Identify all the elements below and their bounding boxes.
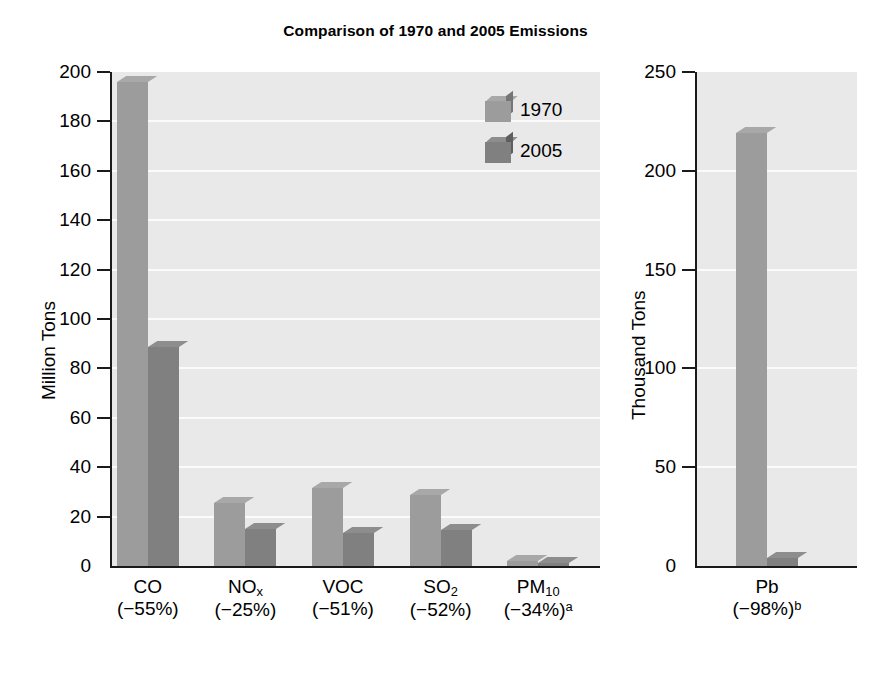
y-axis-tick bbox=[97, 71, 110, 73]
x-axis-category-label: PM10(−34%)a bbox=[458, 576, 618, 622]
legend-label-1970: 1970 bbox=[520, 100, 562, 119]
gridline bbox=[112, 219, 600, 221]
x-axis-category-label: Pb(−98%)b bbox=[687, 576, 847, 621]
y-axis-tick bbox=[682, 71, 695, 73]
legend-swatch-2005-icon bbox=[485, 137, 511, 163]
gridline bbox=[697, 269, 857, 271]
panel-lead: Thousand Tons 250200150100500 Pb(−98%)b bbox=[600, 0, 871, 679]
bar-1970 bbox=[214, 503, 245, 566]
gridline bbox=[697, 466, 857, 468]
plot-area-right bbox=[695, 72, 857, 568]
bar-2005 bbox=[767, 558, 798, 566]
bar-1970 bbox=[117, 82, 148, 566]
bar-2005 bbox=[245, 529, 276, 566]
y-axis-tick-label: 100 bbox=[620, 358, 676, 377]
y-axis-tick-label: 140 bbox=[35, 210, 91, 229]
y-axis-tick bbox=[682, 466, 695, 468]
legend-item-1970[interactable]: 1970 bbox=[485, 96, 562, 122]
y-axis-tick-label: 200 bbox=[35, 62, 91, 81]
y-axis-tick-label: 150 bbox=[620, 260, 676, 279]
y-axis-tick bbox=[97, 417, 110, 419]
bar-1970 bbox=[736, 133, 767, 566]
y-axis-tick bbox=[97, 219, 110, 221]
y-axis-tick-label: 60 bbox=[35, 408, 91, 427]
bar-1970 bbox=[312, 488, 343, 566]
y-axis-tick-label: 20 bbox=[35, 507, 91, 526]
y-axis-tick bbox=[682, 269, 695, 271]
gridline bbox=[697, 367, 857, 369]
legend-swatch-1970-icon bbox=[485, 96, 511, 122]
gridline bbox=[112, 466, 600, 468]
legend-label-2005: 2005 bbox=[520, 141, 562, 160]
y-axis-tick-label: 40 bbox=[35, 457, 91, 476]
y-axis-tick-label: 80 bbox=[35, 358, 91, 377]
y-axis-tick-label: 100 bbox=[35, 309, 91, 328]
y-axis-tick bbox=[97, 367, 110, 369]
bar-2005 bbox=[538, 563, 569, 566]
y-axis-tick bbox=[97, 170, 110, 172]
category-name: Pb bbox=[687, 576, 847, 598]
gridline bbox=[112, 269, 600, 271]
bar-1970 bbox=[507, 561, 538, 566]
y-axis-tick-label: 250 bbox=[620, 62, 676, 81]
gridline bbox=[112, 170, 600, 172]
gridline bbox=[697, 170, 857, 172]
category-name: PM10 bbox=[458, 576, 618, 599]
gridline bbox=[112, 318, 600, 320]
y-axis-tick-label: 0 bbox=[35, 556, 91, 575]
y-axis-tick bbox=[97, 466, 110, 468]
y-axis-tick bbox=[97, 120, 110, 122]
y-axis-tick-label: 160 bbox=[35, 161, 91, 180]
y-axis-tick-label: 200 bbox=[620, 161, 676, 180]
y-axis-tick-label: 0 bbox=[620, 556, 676, 575]
bar-2005 bbox=[441, 530, 472, 566]
gridline bbox=[112, 516, 600, 518]
y-axis-title-right: Thousand Tons bbox=[628, 290, 650, 420]
chart-canvas: Comparison of 1970 and 2005 Emissions Mi… bbox=[0, 0, 871, 679]
y-axis-tick-label: 120 bbox=[35, 260, 91, 279]
category-change: (−98%)b bbox=[687, 598, 847, 621]
y-axis-tick-label: 50 bbox=[620, 457, 676, 476]
bar-1970 bbox=[410, 495, 441, 566]
legend-item-2005[interactable]: 2005 bbox=[485, 137, 562, 163]
y-axis-tick bbox=[97, 318, 110, 320]
bar-2005 bbox=[343, 533, 374, 566]
panel-criteria-pollutants: Million Tons 200180160140120100806040200… bbox=[0, 0, 600, 679]
gridline bbox=[112, 417, 600, 419]
gridline bbox=[112, 367, 600, 369]
category-change: (−34%)a bbox=[458, 599, 618, 622]
y-axis-tick-label: 180 bbox=[35, 111, 91, 130]
y-axis-tick bbox=[97, 269, 110, 271]
y-axis-tick bbox=[97, 516, 110, 518]
bar-2005 bbox=[148, 347, 179, 566]
y-axis-tick bbox=[682, 367, 695, 369]
y-axis-tick bbox=[682, 170, 695, 172]
